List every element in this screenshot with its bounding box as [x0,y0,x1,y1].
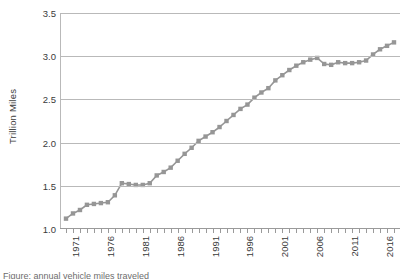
y-axis-title: Trillion Miles [2,0,24,232]
y-tick-label: 3.5 [26,8,56,19]
y-tick-label: 2.0 [26,137,56,148]
x-tick-label: 1971 [70,236,81,257]
y-axis-tick-labels: 1.01.52.02.53.03.5 [22,0,56,240]
x-tick-label: 2006 [314,236,325,257]
y-axis-title-text: Trillion Miles [8,88,19,143]
x-tick-label: 2011 [349,236,360,256]
y-tick-label: 2.5 [26,94,56,105]
x-tick-label: 2016 [384,236,395,257]
x-tick-label: 1976 [105,236,116,257]
chart-container: Trillion Miles 1.01.52.02.53.03.5 197119… [0,0,411,279]
figure-caption: Figure: annual vehicle miles traveled [3,271,408,279]
x-tick-label: 1986 [175,236,186,257]
y-tick-label: 3.0 [26,51,56,62]
y-tick-label: 1.5 [26,180,56,191]
y-tick-label: 1.0 [26,224,56,235]
x-tick-label: 1991 [210,236,221,257]
x-tick-label: 1996 [244,236,255,257]
x-tick-label: 1981 [140,236,151,257]
x-tick-label: 2001 [279,236,290,257]
x-axis-tick-labels: 1971197619811986199119962001200620112016 [60,0,400,279]
